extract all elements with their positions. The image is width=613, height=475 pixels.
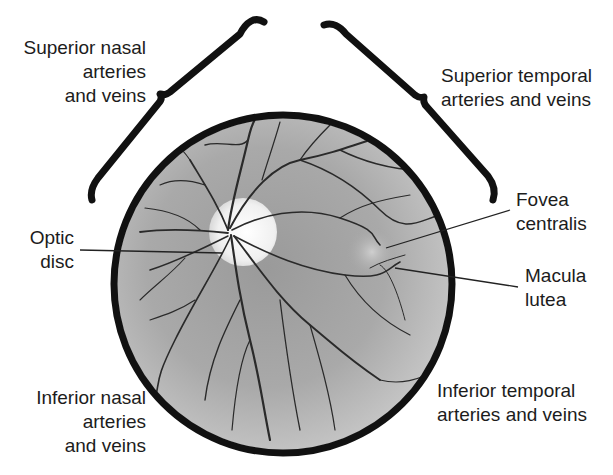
label-superior-nasal: Superior nasal arteries and veins (12, 36, 146, 108)
label-fovea-centralis: Fovea centralis (516, 188, 587, 236)
label-superior-temporal: Superior temporal arteries and veins (441, 64, 592, 112)
fundus (114, 115, 452, 453)
label-inferior-temporal: Inferior temporal arteries and veins (437, 379, 587, 427)
label-optic-disc: Optic disc (12, 226, 74, 274)
label-inferior-nasal: Inferior nasal arteries and veins (12, 386, 146, 458)
label-macula-lutea: Macula lutea (525, 264, 586, 312)
retina-diagram: Superior nasal arteries and veins Superi… (0, 0, 613, 475)
